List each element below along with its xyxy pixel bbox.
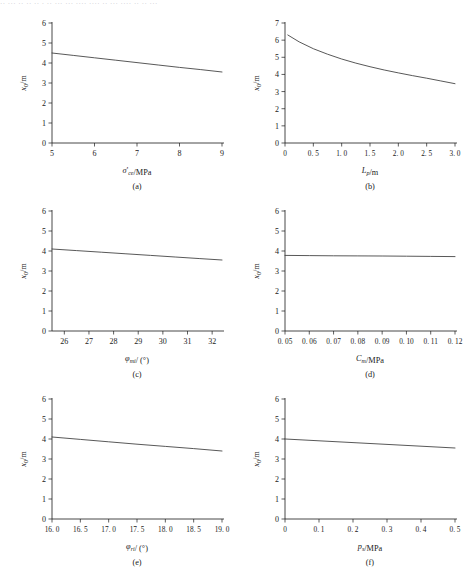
svg-text:2: 2 xyxy=(275,105,279,114)
svg-text:0: 0 xyxy=(275,327,279,336)
svg-text:6: 6 xyxy=(275,36,279,45)
svg-text:6: 6 xyxy=(42,19,46,28)
svg-text:x0/m: x0/m xyxy=(19,263,29,280)
svg-text:4: 4 xyxy=(42,247,46,256)
svg-text:7: 7 xyxy=(135,149,139,158)
x-axis-ticks-a: 56789 xyxy=(50,143,224,158)
data-curve-e xyxy=(52,437,222,451)
svg-text:x0/m: x0/m xyxy=(19,451,29,468)
svg-text:27: 27 xyxy=(85,337,93,346)
svg-text:x0/m: x0/m xyxy=(252,75,262,92)
svg-text:2: 2 xyxy=(42,287,46,296)
svg-text:18. 5: 18. 5 xyxy=(186,525,201,534)
panel-caption-e: (e) xyxy=(132,558,141,567)
svg-text:2: 2 xyxy=(275,475,279,484)
axes-c xyxy=(52,210,224,331)
svg-text:4: 4 xyxy=(275,247,279,256)
svg-text:0. 10: 0. 10 xyxy=(399,337,414,346)
svg-text:0: 0 xyxy=(283,149,287,158)
x-axis-ticks-c: 26272829303132 xyxy=(60,331,216,346)
svg-text:28: 28 xyxy=(110,337,118,346)
svg-text:29: 29 xyxy=(134,337,142,346)
svg-text:7: 7 xyxy=(275,19,279,28)
svg-text:3: 3 xyxy=(42,455,46,464)
y-axis-label-e: x0/m xyxy=(19,451,29,468)
svg-text:2. 0: 2. 0 xyxy=(393,149,404,158)
svg-text:3: 3 xyxy=(275,267,279,276)
svg-text:0: 0 xyxy=(42,327,46,336)
svg-text:1. 0: 1. 0 xyxy=(336,149,347,158)
svg-text:1: 1 xyxy=(42,119,46,128)
svg-text:19. 0: 19. 0 xyxy=(215,525,230,534)
panel-caption-d: (d) xyxy=(365,370,375,379)
axes-f xyxy=(285,398,457,519)
svg-text:5: 5 xyxy=(42,39,46,48)
svg-text:0. 5: 0. 5 xyxy=(450,525,461,534)
svg-text:2: 2 xyxy=(42,475,46,484)
panel-caption-c: (c) xyxy=(132,370,141,379)
y-axis-ticks-a: 0123456 xyxy=(42,19,52,148)
svg-text:0: 0 xyxy=(42,515,46,524)
y-axis-ticks-f: 0123456 xyxy=(275,395,285,524)
data-curve-f xyxy=(285,439,455,448)
svg-text:5: 5 xyxy=(50,149,54,158)
svg-text:5: 5 xyxy=(275,53,279,62)
x-axis-ticks-d: 0. 050. 060. 070. 080. 090. 100. 110. 12 xyxy=(278,331,463,346)
svg-text:x0/m: x0/m xyxy=(252,263,262,280)
x-axis-label-d: Cm/MPa xyxy=(356,354,384,365)
svg-text:0. 5: 0. 5 xyxy=(308,149,319,158)
svg-text:17. 5: 17. 5 xyxy=(130,525,145,534)
svg-text:31: 31 xyxy=(184,337,192,346)
svg-text:3: 3 xyxy=(42,79,46,88)
y-axis-ticks-d: 0123456 xyxy=(275,207,285,336)
y-axis-label-c: x0/m xyxy=(19,263,29,280)
svg-text:4: 4 xyxy=(275,70,279,79)
svg-text:x0/m: x0/m xyxy=(252,451,262,468)
svg-text:6: 6 xyxy=(275,207,279,216)
svg-text:6: 6 xyxy=(42,395,46,404)
chart-panel-f: 012345600. 10. 20. 30. 40. 5x0/mps/MPa(f… xyxy=(233,385,466,571)
svg-text:0. 12: 0. 12 xyxy=(448,337,463,346)
x-axis-label-f: ps/MPa xyxy=(357,542,383,553)
svg-text:0: 0 xyxy=(275,515,279,524)
svg-text:18. 0: 18. 0 xyxy=(158,525,173,534)
top-cropped-text: ·· ··· ·· ·· ·· · ·· ··· ··· ···· ···· ·… xyxy=(0,0,466,9)
chart-panel-d: 01234560. 050. 060. 070. 080. 090. 100. … xyxy=(233,197,466,385)
x-axis-ticks-b: 00. 51. 01. 52. 02. 53. 0 xyxy=(283,143,461,158)
svg-text:6: 6 xyxy=(93,149,97,158)
svg-text:4: 4 xyxy=(275,435,279,444)
svg-text:17. 0: 17. 0 xyxy=(101,525,116,534)
svg-text:3. 0: 3. 0 xyxy=(450,149,461,158)
data-curve-d xyxy=(285,255,455,256)
svg-text:0. 05: 0. 05 xyxy=(278,337,293,346)
svg-text:0. 11: 0. 11 xyxy=(424,337,439,346)
x-axis-label-a: σ'ce/MPa xyxy=(123,166,152,177)
svg-text:0. 06: 0. 06 xyxy=(302,337,317,346)
svg-text:1: 1 xyxy=(275,122,279,131)
chart-panel-b: 0123456700. 51. 01. 52. 02. 53. 0x0/mLp/… xyxy=(233,9,466,197)
y-axis-ticks-e: 0123456 xyxy=(42,395,52,524)
x-axis-label-c: φmi/ (°) xyxy=(125,354,149,365)
chart-panel-e: 012345616. 016. 517. 017. 518. 018. 519.… xyxy=(0,385,233,571)
panel-caption-a: (a) xyxy=(132,182,141,191)
svg-text:16. 0: 16. 0 xyxy=(45,525,60,534)
x-axis-label-e: φri/ (°) xyxy=(126,542,148,553)
svg-text:0. 4: 0. 4 xyxy=(416,525,427,534)
svg-text:3: 3 xyxy=(275,455,279,464)
svg-text:0: 0 xyxy=(275,139,279,148)
svg-text:0. 3: 0. 3 xyxy=(382,525,393,534)
y-axis-ticks-c: 0123456 xyxy=(42,207,52,336)
svg-text:1: 1 xyxy=(42,495,46,504)
y-axis-label-f: x0/m xyxy=(252,451,262,468)
svg-text:5: 5 xyxy=(275,415,279,424)
svg-text:1. 5: 1. 5 xyxy=(365,149,376,158)
svg-text:4: 4 xyxy=(42,435,46,444)
svg-text:2: 2 xyxy=(42,99,46,108)
y-axis-label-a: x0/m xyxy=(19,75,29,92)
svg-text:1: 1 xyxy=(275,307,279,316)
svg-text:1: 1 xyxy=(275,495,279,504)
axes-e xyxy=(52,398,224,519)
svg-text:26: 26 xyxy=(60,337,68,346)
y-axis-label-b: x0/m xyxy=(252,75,262,92)
